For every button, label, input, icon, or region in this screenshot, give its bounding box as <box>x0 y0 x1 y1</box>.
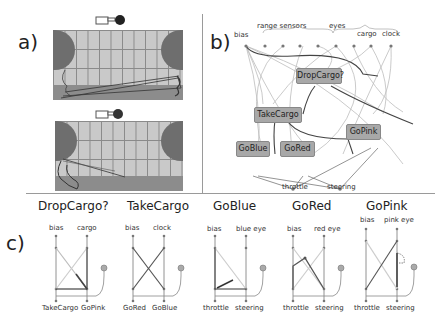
diagram-takecargo <box>132 235 184 303</box>
module-diagrams <box>0 0 435 324</box>
diagram-goblue <box>214 235 266 303</box>
diagram-gopink <box>365 228 417 303</box>
diagram-dropcargo <box>55 235 107 303</box>
diagram-gored <box>292 235 344 303</box>
